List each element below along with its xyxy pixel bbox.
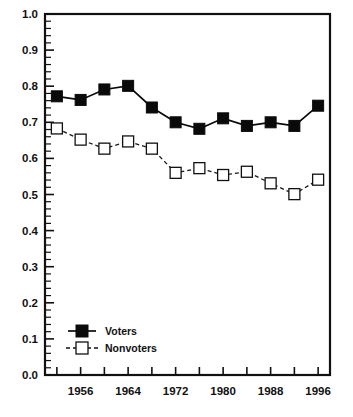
x-tick-label: 1972: [163, 385, 189, 397]
plot-frame: [45, 14, 330, 375]
y-axis-tick-labels: 0.00.10.20.30.40.50.60.70.80.91.0: [22, 8, 39, 381]
voters-line: [57, 86, 318, 129]
nonvoters-data-point: [313, 174, 324, 185]
voters-data-point: [194, 123, 205, 134]
y-tick-label: 0.4: [22, 225, 39, 237]
voters-data-point: [241, 120, 252, 131]
y-tick-label: 0.2: [22, 297, 38, 309]
y-axis-ticks: [45, 14, 54, 375]
x-tick-label: 1996: [305, 385, 331, 397]
voters-data-point: [289, 120, 300, 131]
voters-data-point: [123, 80, 134, 91]
nonvoters-data-point: [123, 136, 134, 147]
y-tick-label: 0.6: [22, 152, 38, 164]
nonvoters-data-point: [265, 178, 276, 189]
y-tick-label: 0.9: [22, 44, 38, 56]
x-tick-label: 1956: [68, 385, 94, 397]
nonvoters-data-point: [289, 189, 300, 200]
voters-data-point: [75, 94, 86, 105]
x-tick-label: 1980: [210, 385, 236, 397]
nonvoters-data-point: [218, 170, 229, 181]
nonvoters-data-point: [170, 167, 181, 178]
voters-data-point: [218, 113, 229, 124]
x-axis-tick-labels: 195619641972198019881996: [68, 385, 331, 397]
nonvoters-data-point: [75, 134, 86, 145]
y-tick-label: 1.0: [22, 8, 38, 20]
x-tick-label: 1964: [115, 385, 141, 397]
nonvoters-data-point: [51, 123, 62, 134]
legend-item-voters: Voters: [68, 325, 137, 337]
legend-label-nonvoters: Nonvoters: [105, 342, 157, 354]
legend-item-nonvoters: Nonvoters: [66, 342, 157, 354]
nonvoters-data-point: [241, 166, 252, 177]
chart-container: 0.00.10.20.30.40.50.60.70.80.91.0 195619…: [0, 0, 353, 417]
y-tick-label: 0.0: [22, 369, 38, 381]
legend-label-voters: Voters: [105, 325, 137, 337]
y-tick-label: 0.8: [22, 80, 39, 92]
legend-marker-nonvoters-open-square-icon: [76, 342, 88, 354]
line-chart: 0.00.10.20.30.40.50.60.70.80.91.0 195619…: [0, 0, 353, 417]
series-voters: [51, 80, 323, 134]
nonvoters-markers: [51, 123, 323, 200]
x-tick-label: 1988: [258, 385, 284, 397]
voters-data-point: [99, 84, 110, 95]
chart-legend: Voters Nonvoters: [66, 325, 157, 354]
y-tick-label: 0.3: [22, 261, 38, 273]
y-tick-label: 0.1: [22, 333, 39, 345]
nonvoters-data-point: [99, 143, 110, 154]
voters-data-point: [51, 91, 62, 102]
nonvoters-data-point: [194, 163, 205, 174]
voters-data-point: [146, 102, 157, 113]
voters-data-point: [313, 100, 324, 111]
y-tick-label: 0.5: [22, 189, 39, 201]
y-tick-label: 0.7: [22, 116, 38, 128]
series-nonvoters: [51, 123, 323, 200]
voters-data-point: [265, 117, 276, 128]
nonvoters-data-point: [146, 143, 157, 154]
legend-marker-voters-filled-square-icon: [76, 325, 88, 337]
x-axis-ticks: [57, 367, 318, 375]
nonvoters-line: [57, 128, 318, 194]
voters-data-point: [170, 117, 181, 128]
